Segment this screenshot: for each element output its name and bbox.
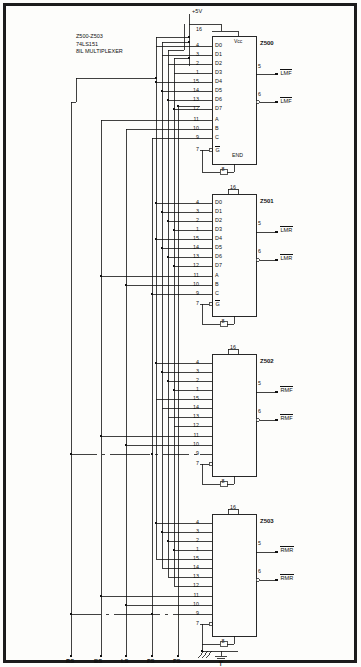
note-line-3: 8IL MULTIPLEXER (76, 48, 123, 56)
output-pin-number-z502-5: 5 (258, 380, 266, 386)
pin-number-z500-d4: 15 (187, 78, 199, 84)
pin-number-z502-sel1: 10 (187, 441, 199, 447)
bus-input-label-ls-2[interactable]: LS (121, 658, 128, 664)
ground-symbol-label: T (219, 661, 222, 667)
bus-input-label-fs-3[interactable]: FS (147, 658, 154, 664)
pin-number-z500-d0: 4 (187, 42, 199, 48)
pin-number-z500-d1: 3 (187, 51, 199, 57)
pin-number-z503-d3: 1 (187, 546, 199, 552)
title-note: Z500-Z503 74LS151 8IL MULTIPLEXER (76, 33, 123, 56)
pin-name-z500-c: C (215, 134, 219, 140)
output-label-rmr-z503-6: RMR (280, 574, 294, 582)
pin-number-z500-d5: 14 (187, 87, 199, 93)
pin-name-z501-a: A (215, 272, 219, 278)
pin-number-z502-d1: 3 (187, 368, 199, 374)
ic-ref-z502: Z502 (260, 358, 274, 364)
gnd-pin-number-z500: 8 (218, 166, 228, 172)
pin-number-z502-d5: 14 (187, 404, 199, 410)
output-label-lmr-z501-6: LMR (280, 254, 293, 262)
pin-number-z501-d2: 2 (187, 217, 199, 223)
pin-name-z501-c: C (215, 290, 219, 296)
output-label-lmr-z501-5: LMR (280, 226, 293, 234)
output-label-lmf-z500-5: LMF (280, 69, 292, 77)
pin-number-z500-d2: 2 (187, 60, 199, 66)
schematic-frame: Z500-Z503 74LS151 8IL MULTIPLEXER +5V 16… (5, 5, 355, 661)
enable-note-z500: END (232, 152, 243, 158)
vcc-pin-number-z501: 16 (226, 184, 240, 190)
pin-number-z503-d2: 2 (187, 537, 199, 543)
pin-number-z501-sel0: 11 (187, 272, 199, 278)
pin-number-z503-d7: 12 (187, 582, 199, 588)
pin-name-z501-d1: D1 (215, 208, 222, 214)
pin-name-z501-d7: D7 (215, 262, 222, 268)
pin-name-z500-a: A (215, 116, 219, 122)
pin-number-z503-d0: 4 (187, 519, 199, 525)
pin-number-z502-d7: 12 (187, 422, 199, 428)
output-label-lmf-z500-6: LMF (280, 97, 292, 105)
output-pin-number-z503-6: 6 (258, 568, 266, 574)
wiring-layer (6, 6, 356, 662)
ic-ref-z501: Z501 (260, 198, 274, 204)
pin-name-z501-g: G (215, 300, 220, 308)
pin-name-z501-d5: D5 (215, 244, 222, 250)
pin-number-z503-enable: 7 (187, 620, 199, 626)
pin-number-z501-d1: 3 (187, 208, 199, 214)
pin-number-z502-d6: 13 (187, 413, 199, 419)
pin-name-z500-d0: D0 (215, 42, 222, 48)
pin-number-z501-sel1: 10 (187, 281, 199, 287)
pin-name-z501-d0: D0 (215, 199, 222, 205)
pin-number-z501-sel2: 9 (187, 290, 199, 296)
note-line-2: 74LS151 (76, 41, 123, 49)
supply-label: +5V (192, 8, 202, 14)
pin-number-z501-d6: 13 (187, 253, 199, 259)
schematic-page: Z500-Z503 74LS151 8IL MULTIPLEXER +5V 16… (0, 0, 361, 667)
pin-number-z502-d4: 15 (187, 395, 199, 401)
pin-name-z501-d6: D6 (215, 253, 222, 259)
note-line-1: Z500-Z503 (76, 33, 123, 41)
pin-name-z501-d4: D4 (215, 235, 222, 241)
pin-number-z501-d5: 14 (187, 244, 199, 250)
vcc-pin-number-z502: 16 (226, 344, 240, 350)
bus-input-label-fs-4[interactable]: FS (173, 658, 180, 664)
output-pin-number-z501-5: 5 (258, 220, 266, 226)
pin-number-z503-d1: 3 (187, 528, 199, 534)
pin-number-z500-d7: 12 (187, 105, 199, 111)
pin-name-z500-d6: D6 (215, 96, 222, 102)
pin-number-z503-d5: 14 (187, 564, 199, 570)
pin-name-z500-d4: D4 (215, 78, 222, 84)
pin-number-z500-sel0: 11 (187, 116, 199, 122)
pin-number-z503-sel1: 10 (187, 601, 199, 607)
pin-number-z501-d4: 15 (187, 235, 199, 241)
vcc-name-z500: Vcc (234, 38, 242, 44)
bus-input-label-rs-0[interactable]: RS (66, 658, 74, 664)
output-label-rmr-z503-5: RMR (280, 546, 294, 554)
pin-number-z502-d3: 1 (187, 386, 199, 392)
pin-number-z503-d4: 15 (187, 555, 199, 561)
pin-number-z502-sel2: 9 (187, 450, 199, 456)
pin-number-z500-sel2: 9 (187, 134, 199, 140)
pin-number-z501-d0: 4 (187, 199, 199, 205)
pin-number-z500-d3: 1 (187, 69, 199, 75)
pin-number-z500-sel1: 10 (187, 125, 199, 131)
pin-name-z500-d5: D5 (215, 87, 222, 93)
pin-number-z500-d6: 13 (187, 96, 199, 102)
pin-name-z500-d7: D7 (215, 105, 222, 111)
vcc-pin-number-z503: 16 (226, 504, 240, 510)
output-pin-number-z500-5: 5 (258, 63, 266, 69)
output-label-rmf-z502-6: RMF (280, 414, 293, 422)
pin-name-z500-g: G (215, 146, 220, 154)
pin-number-z503-sel0: 11 (187, 592, 199, 598)
pin-number-z500-enable: 7 (187, 146, 199, 152)
gnd-pin-number-z502: 8 (218, 478, 228, 484)
pin-number-z501-d7: 12 (187, 262, 199, 268)
pin-number-z502-d0: 4 (187, 359, 199, 365)
pin-number-z502-sel0: 11 (187, 432, 199, 438)
pin-number-z503-sel2: 9 (187, 610, 199, 616)
output-pin-number-z500-6: 6 (258, 91, 266, 97)
pin-number-z503-d6: 13 (187, 573, 199, 579)
pin-number-z501-enable: 7 (187, 300, 199, 306)
ic-ref-z500: Z500 (260, 40, 274, 46)
pin-number-z502-d2: 2 (187, 377, 199, 383)
bus-input-label-bs-1[interactable]: BS (94, 658, 102, 664)
pin-name-z500-d1: D1 (215, 51, 222, 57)
